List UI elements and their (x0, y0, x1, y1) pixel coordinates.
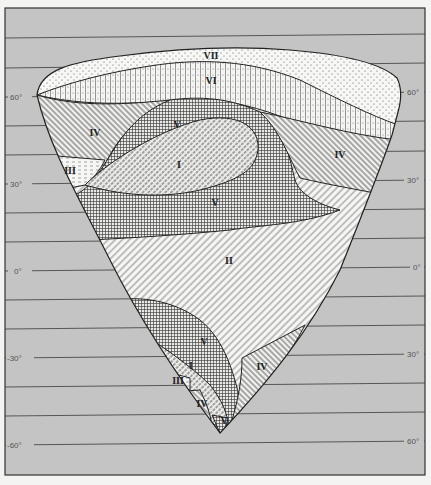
lat-label-left-30: 30° (10, 180, 22, 189)
label-III-north: III (64, 165, 76, 176)
label-V-north: V (173, 119, 181, 130)
label-V-center: V (211, 197, 219, 208)
lat-label-left-0: 0° (14, 267, 22, 276)
label-V-tip: V (220, 415, 228, 426)
label-I-north: I (177, 159, 181, 170)
label-IV-northeast: IV (334, 149, 346, 160)
lat-label-right-60s: 60° (407, 437, 419, 446)
lat-label-left-neg60: -60° (7, 441, 22, 450)
label-II: II (225, 255, 233, 266)
lat-label-left-60: 60° (10, 93, 22, 102)
label-IV-southwest: IV (196, 398, 208, 409)
lat-label-right-30s: 30° (407, 350, 419, 359)
lat-label-left-neg30: -30° (7, 354, 22, 363)
label-V-south: V (200, 336, 208, 347)
zonal-map: 60° 30° 0° -30° -60° 60° 30° 0° 30° 60° (0, 0, 431, 485)
label-VI: VI (205, 75, 216, 86)
label-I-south: I (189, 360, 193, 371)
label-IV-northwest: IV (89, 127, 101, 138)
label-VII: VII (203, 50, 218, 61)
label-III-south: III (172, 375, 184, 386)
lat-label-right-30: 30° (407, 176, 419, 185)
lat-label-right-0: 0° (413, 263, 421, 272)
lat-label-right-60: 60° (407, 88, 419, 97)
label-IV-southeast: IV (256, 361, 268, 372)
